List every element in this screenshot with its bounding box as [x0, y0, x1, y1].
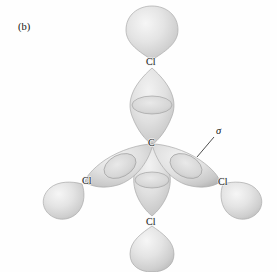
bond-top-outer-lobe [126, 6, 178, 60]
bond-top-overlap-ring [132, 96, 172, 114]
atom-label-chlorine-top: Cl [146, 57, 155, 67]
bond-left-outer-lobe [43, 182, 84, 219]
atom-label-chlorine-left: Cl [82, 176, 91, 186]
bond-top-group [126, 6, 178, 145]
bond-bottom-overlap-ring [135, 172, 169, 188]
bond-bottom-outer-lobe [130, 226, 174, 272]
atom-label-chlorine-right: Cl [218, 177, 227, 187]
orbital-canvas [0, 0, 277, 272]
orbital-diagram-figure: (b) Cl C Cl Cl Cl σ [0, 0, 277, 272]
atom-label-chlorine-bottom: Cl [146, 217, 155, 227]
panel-label: (b) [18, 22, 30, 33]
sigma-bond-label: σ [216, 126, 221, 137]
atom-label-carbon-center: C [148, 138, 155, 148]
bond-right-outer-lobe [221, 182, 262, 219]
sigma-leader-line [197, 137, 214, 157]
